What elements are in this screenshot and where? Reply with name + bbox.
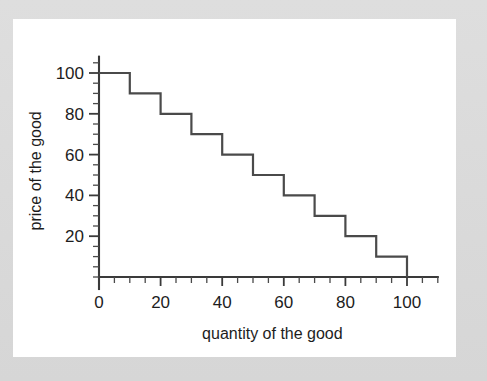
x-axis-title-text: quantity of the good [202,325,343,342]
y-axis-tick-label: 60 [65,146,84,165]
demand-curve-chart: 20406080100020406080100quantity of the g… [13,19,456,357]
demand-step-curve [99,73,407,277]
x-axis-tick-label: 0 [94,293,103,312]
y-axis-title-text: price of the good [27,111,44,230]
page-background: 20406080100020406080100quantity of the g… [0,0,487,381]
x-axis-tick-label: 40 [213,293,232,312]
y-axis-tick-label: 40 [65,186,84,205]
y-axis-tick-label: 20 [65,227,84,246]
x-axis-tick-label: 80 [336,293,355,312]
x-axis-tick-label: 100 [393,293,421,312]
chart-card: 20406080100020406080100quantity of the g… [13,19,456,357]
x-axis-tick-label: 20 [151,293,170,312]
x-axis-tick-label: 60 [274,293,293,312]
y-axis-tick-label: 100 [56,64,84,83]
y-axis-tick-label: 80 [65,105,84,124]
